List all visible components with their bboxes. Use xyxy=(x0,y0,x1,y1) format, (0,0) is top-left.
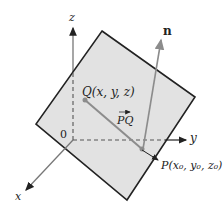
figure-canvas xyxy=(0,0,224,214)
x-axis-label: x xyxy=(15,191,21,202)
x-axis xyxy=(26,140,73,190)
normal-vector-label: n xyxy=(163,25,172,37)
point-q-label: Q(x, y, z) xyxy=(82,86,135,98)
plane xyxy=(36,31,195,200)
y-axis-label: y xyxy=(190,132,197,144)
z-axis-label: z xyxy=(69,12,75,23)
pq-vector-label: PQ xyxy=(117,115,133,126)
point-p-label: P(x₀, y₀, z₀) xyxy=(161,160,222,171)
origin-label: 0 xyxy=(60,129,67,140)
